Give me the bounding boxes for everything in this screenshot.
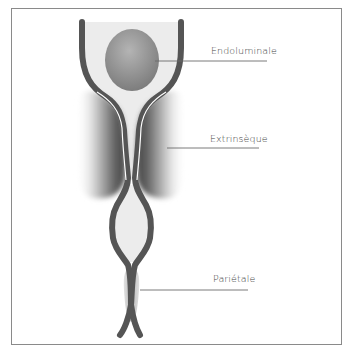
obstruction-diagram [0, 0, 353, 354]
label-endoluminale: Endoluminale [211, 45, 277, 56]
label-extrinseque: Extrinsèque [210, 133, 268, 144]
label-parietale: Pariétale [213, 273, 255, 284]
endoluminal-mass [105, 29, 159, 91]
